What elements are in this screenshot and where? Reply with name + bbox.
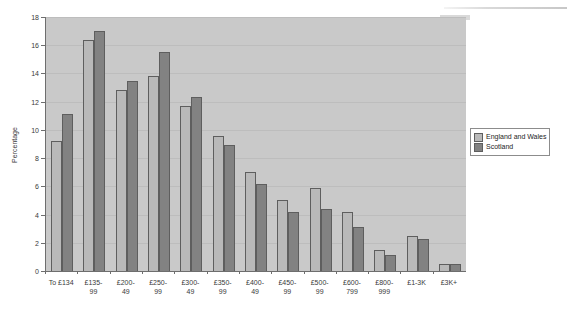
bar xyxy=(62,114,73,271)
x-tick-label: £800- 999 xyxy=(368,272,400,296)
x-tick-label: £450- 99 xyxy=(271,272,303,296)
legend-swatch xyxy=(474,143,483,152)
bar xyxy=(191,97,202,271)
bar xyxy=(385,255,396,271)
legend-item: England and Wales xyxy=(474,132,546,142)
x-tick: £600- 799 xyxy=(336,272,368,312)
bar xyxy=(374,250,385,271)
x-tick: To £134 xyxy=(45,272,77,312)
x-tick-label: £1-3K xyxy=(400,272,432,287)
bar xyxy=(213,136,224,271)
x-tick-mark xyxy=(110,271,111,274)
x-tick-mark xyxy=(368,271,369,274)
bar xyxy=(342,212,353,271)
bar xyxy=(277,200,288,271)
y-axis: 024681012141618 Percentage xyxy=(0,17,45,272)
x-tick: £350- 99 xyxy=(207,272,239,312)
x-tick-label: £3K+ xyxy=(433,272,465,287)
x-tick: £400- 49 xyxy=(239,272,271,312)
bar xyxy=(127,81,138,272)
legend-label: Scotland xyxy=(486,142,513,152)
bar xyxy=(148,76,159,271)
x-tick-mark xyxy=(174,271,175,274)
legend-label: England and Wales xyxy=(486,132,546,142)
bars-layer xyxy=(46,17,466,271)
bar-group xyxy=(272,17,304,271)
bar-group xyxy=(46,17,78,271)
bar-group xyxy=(175,17,207,271)
x-tick: £500- 99 xyxy=(304,272,336,312)
x-axis: To £134£135- 99£200- 49£250- 99£300- 49£… xyxy=(45,272,465,312)
bar-group xyxy=(401,17,433,271)
bar xyxy=(94,31,105,271)
bar xyxy=(116,90,127,271)
x-tick: £800- 999 xyxy=(368,272,400,312)
bar-group xyxy=(434,17,466,271)
x-tick-mark xyxy=(239,271,240,274)
plot-area xyxy=(45,17,466,272)
bar xyxy=(245,172,256,271)
y-tick-label: 2 xyxy=(35,239,39,246)
x-tick-label: £500- 99 xyxy=(304,272,336,296)
y-tick-label: 14 xyxy=(31,70,39,77)
bar-group xyxy=(369,17,401,271)
y-axis-title: Percentage xyxy=(11,95,18,195)
bar-group xyxy=(111,17,143,271)
legend-item: Scotland xyxy=(474,142,546,152)
bar xyxy=(450,264,461,271)
x-tick-mark xyxy=(304,271,305,274)
bar-chart: 024681012141618 Percentage To £134£135- … xyxy=(0,0,575,315)
bar-group xyxy=(240,17,272,271)
bar-group xyxy=(305,17,337,271)
x-tick: £1-3K xyxy=(400,272,432,312)
x-tick-label: £600- 799 xyxy=(336,272,368,296)
bar xyxy=(224,145,235,271)
y-tick-label: 16 xyxy=(31,42,39,49)
x-tick: £3K+ xyxy=(433,272,465,312)
bar xyxy=(353,227,364,271)
x-tick-mark xyxy=(336,271,337,274)
x-tick-label: £300- 49 xyxy=(174,272,206,296)
x-tick-label: To £134 xyxy=(45,272,77,287)
bar xyxy=(159,52,170,271)
x-tick-mark xyxy=(45,271,46,274)
x-tick-mark xyxy=(271,271,272,274)
bar-group xyxy=(337,17,369,271)
x-tick: £200- 49 xyxy=(110,272,142,312)
x-tick: £450- 99 xyxy=(271,272,303,312)
x-tick-mark xyxy=(207,271,208,274)
x-tick: £250- 99 xyxy=(142,272,174,312)
bar xyxy=(288,212,299,271)
x-tick-label: £400- 49 xyxy=(239,272,271,296)
bar xyxy=(256,184,267,271)
legend: England and WalesScotland xyxy=(470,128,550,156)
x-tick-label: £250- 99 xyxy=(142,272,174,296)
x-tick-label: £200- 49 xyxy=(110,272,142,296)
y-tick-label: 6 xyxy=(35,183,39,190)
bar-group xyxy=(208,17,240,271)
bar xyxy=(407,236,418,271)
y-tick-label: 18 xyxy=(31,14,39,21)
bar xyxy=(51,141,62,271)
x-tick-mark xyxy=(433,271,434,274)
y-tick-label: 0 xyxy=(35,268,39,275)
bar xyxy=(321,209,332,271)
bar xyxy=(418,239,429,271)
bar xyxy=(310,188,321,271)
y-tick-label: 4 xyxy=(35,211,39,218)
x-tick-mark xyxy=(77,271,78,274)
x-tick-label: £135- 99 xyxy=(77,272,109,296)
x-tick-mark xyxy=(142,271,143,274)
x-tick-label: £350- 99 xyxy=(207,272,239,296)
x-tick-mark xyxy=(400,271,401,274)
x-tick: £135- 99 xyxy=(77,272,109,312)
y-tick-label: 12 xyxy=(31,98,39,105)
bar xyxy=(180,106,191,271)
bar-group xyxy=(78,17,110,271)
bar-group xyxy=(143,17,175,271)
bar xyxy=(439,264,450,271)
bar xyxy=(83,40,94,271)
top-edge-artifact xyxy=(444,7,567,9)
legend-swatch xyxy=(474,133,483,142)
x-tick: £300- 49 xyxy=(174,272,206,312)
